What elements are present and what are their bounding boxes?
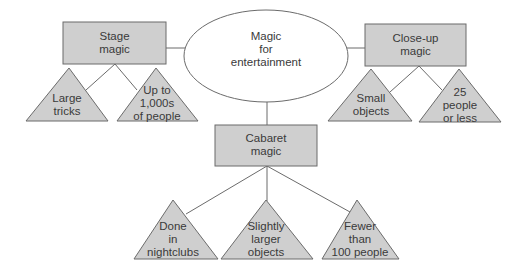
connector-stage-large-tricks	[86, 64, 115, 90]
leaf-small-objects: Small objects	[340, 92, 402, 118]
leaf-nightclubs: Done in nightclubs	[140, 220, 206, 259]
cabaret-magic-label: Cabaret magic	[215, 132, 317, 158]
root-label: Magic for entertainment	[206, 30, 326, 69]
leaf-25-people: 25 people or less	[430, 86, 490, 125]
connector-closeup-small-objects	[390, 66, 419, 92]
leaf-larger-objects: Slightly larger objects	[234, 220, 298, 259]
leaf-large-tricks: Large tricks	[37, 92, 97, 118]
leaf-fewer-than-100: Fewer than 100 people	[322, 220, 398, 259]
closeup-magic-label: Close-up magic	[365, 32, 466, 58]
leaf-up-to-1000s: Up to 1,000s of people	[126, 84, 188, 123]
connector-cabaret-audience	[267, 166, 350, 212]
stage-magic-label: Stage magic	[63, 30, 166, 56]
diagram-canvas: Magic for entertainment Stage magic Clos…	[0, 0, 521, 268]
connector-cabaret-nightclubs	[186, 166, 267, 214]
